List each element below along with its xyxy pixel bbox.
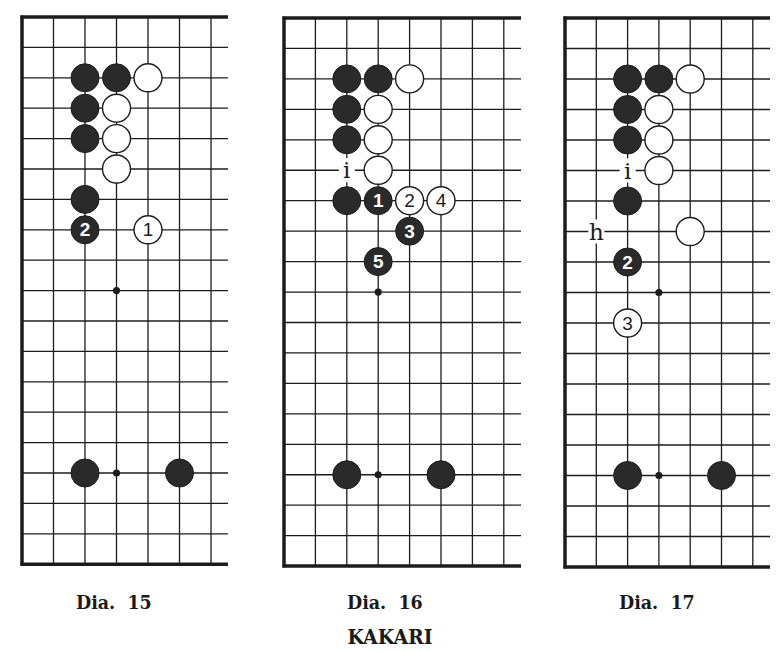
black-stone — [645, 65, 673, 93]
black-stone-icon — [333, 126, 361, 154]
black-stone-icon — [71, 459, 99, 487]
white-stone-3: 3 — [614, 309, 642, 337]
white-stone — [134, 64, 162, 92]
move-number: 2 — [80, 219, 91, 240]
black-stone-icon — [71, 125, 99, 153]
star-point-icon — [655, 289, 662, 296]
move-number: 2 — [404, 190, 415, 211]
white-stone — [396, 65, 424, 93]
black-stone-3: 3 — [396, 217, 424, 245]
black-stone-icon — [333, 461, 361, 489]
point-label-i: i — [624, 158, 631, 184]
black-stone-icon — [333, 65, 361, 93]
black-stone — [333, 461, 361, 489]
white-stone — [364, 126, 392, 154]
black-stone-icon — [614, 462, 642, 490]
white-stone-icon — [396, 65, 424, 93]
white-stone-2: 2 — [396, 187, 424, 215]
black-stone-2: 2 — [71, 216, 99, 244]
black-stone — [103, 64, 131, 92]
black-stone — [71, 185, 99, 213]
white-stone-icon — [645, 157, 673, 185]
white-stone-icon — [676, 65, 704, 93]
caption-dia-16: Dia. 16 — [347, 591, 423, 613]
move-number: 1 — [373, 190, 384, 211]
black-stone-icon — [333, 95, 361, 123]
black-stone — [166, 459, 194, 487]
white-stone-icon — [364, 95, 392, 123]
white-stone-icon — [645, 126, 673, 154]
black-stone-5: 5 — [364, 248, 392, 276]
black-stone — [614, 187, 642, 215]
white-stone-icon — [676, 218, 704, 246]
white-stone — [645, 157, 673, 185]
move-number: 4 — [436, 190, 447, 211]
star-point-icon — [375, 471, 382, 478]
black-stone — [333, 187, 361, 215]
white-stone-icon — [103, 125, 131, 153]
white-stone — [645, 126, 673, 154]
white-stone-icon — [103, 155, 131, 183]
black-stone-2: 2 — [614, 248, 642, 276]
black-stone — [71, 459, 99, 487]
move-number: 2 — [622, 252, 633, 273]
black-stone — [71, 125, 99, 153]
board-dia-16: i12435 — [283, 17, 522, 568]
black-stone-icon — [71, 64, 99, 92]
black-stone-icon — [614, 126, 642, 154]
white-stone-icon — [134, 64, 162, 92]
white-stone — [364, 156, 392, 184]
star-point-icon — [113, 287, 120, 294]
caption-dia-15: Dia. 15 — [76, 591, 152, 613]
black-stone — [333, 65, 361, 93]
point-label-h: h — [589, 219, 604, 245]
black-stone — [333, 126, 361, 154]
move-number: 5 — [373, 251, 384, 272]
kakari-figure: 21i12435ih23 Dia. 15 Dia. 16 Dia. 17 KAK… — [0, 0, 780, 652]
black-stone — [71, 94, 99, 122]
black-stone-icon — [71, 94, 99, 122]
black-stone-icon — [427, 461, 455, 489]
black-stone — [614, 65, 642, 93]
white-stone-1: 1 — [134, 216, 162, 244]
white-stone — [103, 125, 131, 153]
black-stone-icon — [614, 187, 642, 215]
go-diagrams: 21i12435ih23 — [0, 0, 780, 652]
black-stone — [614, 126, 642, 154]
black-stone — [364, 65, 392, 93]
white-stone-icon — [364, 126, 392, 154]
black-stone-icon — [645, 65, 673, 93]
black-stone-icon — [166, 459, 194, 487]
white-stone-icon — [364, 156, 392, 184]
black-stone-icon — [364, 65, 392, 93]
black-stone-icon — [71, 185, 99, 213]
caption-dia-17: Dia. 17 — [619, 591, 695, 613]
black-stone-icon — [614, 96, 642, 124]
move-number: 3 — [622, 313, 633, 334]
white-stone — [676, 65, 704, 93]
black-stone — [708, 462, 736, 490]
white-stone-4: 4 — [427, 187, 455, 215]
black-stone — [614, 96, 642, 124]
white-stone — [103, 155, 131, 183]
white-stone — [103, 94, 131, 122]
white-stone-icon — [645, 96, 673, 124]
black-stone-icon — [333, 187, 361, 215]
white-stone — [364, 95, 392, 123]
white-stone — [645, 96, 673, 124]
white-stone-icon — [103, 94, 131, 122]
board-dia-17: ih23 — [564, 17, 771, 569]
black-stone-icon — [614, 65, 642, 93]
black-stone-icon — [103, 64, 131, 92]
black-stone — [427, 461, 455, 489]
point-label-i: i — [343, 157, 350, 183]
move-number: 1 — [143, 219, 154, 240]
star-point-icon — [375, 288, 382, 295]
figure-title: KAKARI — [39, 624, 741, 649]
board-dia-15: 21 — [21, 16, 229, 566]
white-stone — [676, 218, 704, 246]
move-number: 3 — [404, 221, 415, 242]
black-stone-icon — [708, 462, 736, 490]
black-stone — [71, 64, 99, 92]
star-point-icon — [655, 472, 662, 479]
